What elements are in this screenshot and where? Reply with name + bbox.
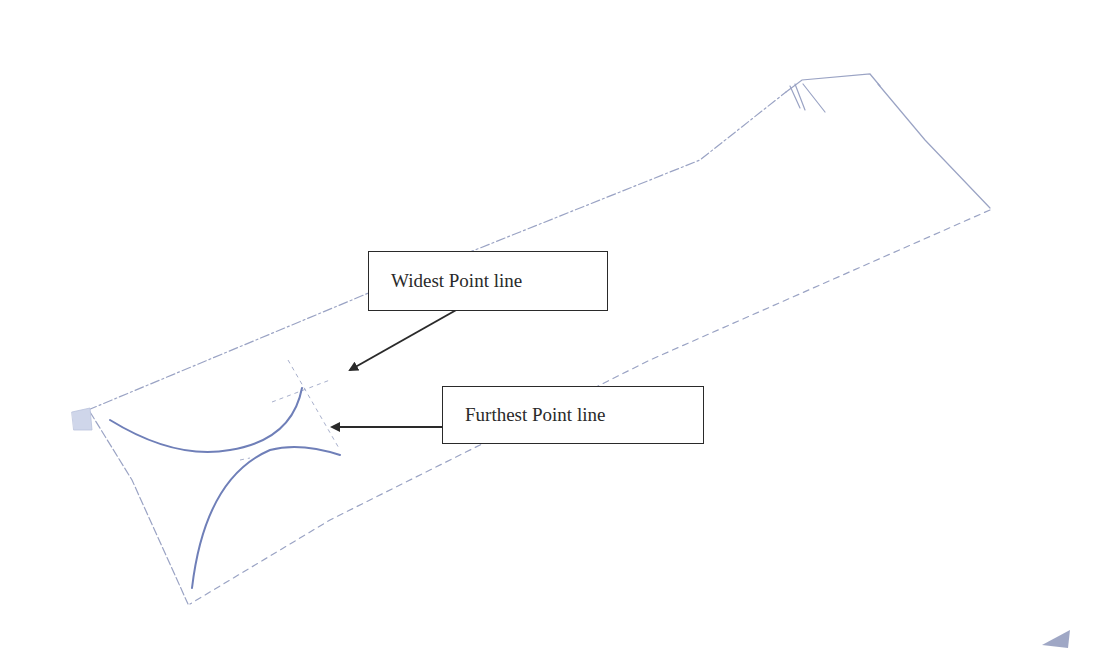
ink-curves bbox=[110, 388, 340, 588]
corner-mark-icon bbox=[1042, 630, 1070, 648]
sketch-canvas bbox=[0, 0, 1104, 672]
lower-curve bbox=[192, 447, 340, 588]
widest-point-label: Widest Point line bbox=[391, 270, 522, 292]
furthest-point-label: Furthest Point line bbox=[465, 404, 605, 426]
furthest-point-callout: Furthest Point line bbox=[442, 386, 704, 444]
widest-point-callout: Widest Point line bbox=[368, 251, 608, 311]
inner-sketch-lines bbox=[240, 360, 340, 460]
upper-curve bbox=[110, 388, 302, 452]
callout-arrows bbox=[332, 309, 458, 427]
outer-board-outline bbox=[72, 74, 990, 604]
widest-point-arrow bbox=[350, 309, 458, 370]
